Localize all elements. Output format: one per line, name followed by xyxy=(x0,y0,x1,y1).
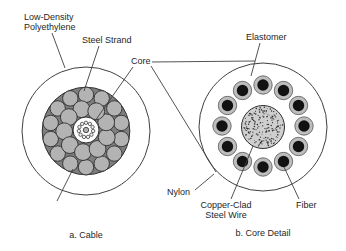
wire-dot-core xyxy=(257,161,268,172)
stipple-dot xyxy=(250,138,252,140)
stipple-dot xyxy=(274,119,275,120)
stipple-dot xyxy=(262,131,263,132)
stipple-dot xyxy=(245,121,246,122)
stipple-dot xyxy=(245,118,246,119)
stipple-dot xyxy=(273,138,274,139)
stipple-dot xyxy=(250,131,251,132)
tube-fiber-circle xyxy=(80,122,83,125)
caption-cable: a. Cable xyxy=(40,230,132,240)
stipple-dot xyxy=(243,127,244,128)
stipple-dot xyxy=(259,139,260,140)
stipple-dot xyxy=(273,130,274,131)
stipple-dot xyxy=(248,131,249,132)
stipple-dot xyxy=(274,115,275,116)
steel-strand-circle xyxy=(78,160,93,175)
steel-strand-circle xyxy=(114,115,129,130)
label-steel-strand: Steel Strand xyxy=(82,35,132,45)
stipple-dot xyxy=(277,134,279,136)
stipple-dot xyxy=(282,124,284,126)
stipple-dot xyxy=(272,118,273,119)
stipple-dot xyxy=(254,121,255,122)
stipple-dot xyxy=(271,138,272,139)
stipple-dot xyxy=(272,122,273,123)
steel-strand-circle xyxy=(75,144,92,161)
stipple-dot xyxy=(266,128,267,129)
stipple-dot xyxy=(263,113,264,114)
stipple-dot xyxy=(270,117,271,118)
stipple-dot xyxy=(250,121,251,122)
stipple-dot xyxy=(275,140,276,141)
stipple-dot xyxy=(270,108,271,109)
cable-cross-section-diagram xyxy=(0,0,346,251)
stipple-dot xyxy=(257,127,258,128)
stipple-dot xyxy=(252,134,253,135)
stipple-dot xyxy=(260,136,261,137)
stipple-dot xyxy=(264,107,265,108)
stipple-dot xyxy=(257,124,259,126)
label-low-density-line2: Polyethylene xyxy=(24,22,76,32)
stipple-dot xyxy=(272,116,273,117)
wire-dot-core xyxy=(237,85,248,96)
stipple-dot xyxy=(259,107,261,109)
stipple-dot xyxy=(271,119,272,120)
stipple-dot xyxy=(258,145,259,146)
stipple-dot xyxy=(246,128,247,129)
stipple-dot xyxy=(266,116,267,117)
tube-fiber-circle xyxy=(82,135,85,138)
stipple-dot xyxy=(247,128,248,129)
stipple-dot xyxy=(251,117,252,118)
stipple-dot xyxy=(267,137,268,138)
caption-core-detail: b. Core Detail xyxy=(213,228,313,238)
steel-strand-circle xyxy=(78,87,93,102)
stipple-dot xyxy=(256,129,257,130)
stipple-dot xyxy=(255,113,257,115)
stipple-dot xyxy=(276,129,278,131)
steel-strand-circle xyxy=(107,146,122,161)
label-low-density-line1: Low-Density xyxy=(24,12,76,22)
leader-low-density-polyethylene xyxy=(52,33,65,68)
stipple-dot xyxy=(256,108,258,110)
leader-nylon xyxy=(195,174,214,190)
stipple-dot xyxy=(256,133,257,134)
stipple-dot xyxy=(252,117,253,118)
stipple-dot xyxy=(278,131,279,132)
label-nylon: Nylon xyxy=(167,187,190,197)
stipple-dot xyxy=(277,137,278,138)
stipple-dot xyxy=(245,123,246,124)
stipple-dot xyxy=(279,127,280,128)
stipple-dot xyxy=(245,124,246,125)
stipple-dot xyxy=(248,128,249,129)
stipple-dot xyxy=(248,124,249,125)
stipple-dot xyxy=(266,110,268,112)
stipple-dot xyxy=(266,140,267,141)
stipple-dot xyxy=(259,111,261,113)
stipple-dot xyxy=(262,116,263,117)
stipple-dot xyxy=(259,144,260,145)
steel-strand-circle xyxy=(94,156,109,171)
stipple-dot xyxy=(262,141,263,142)
wire-dot-core xyxy=(222,100,233,111)
stipple-dot xyxy=(260,142,261,143)
stipple-dot xyxy=(246,124,247,125)
stipple-dot xyxy=(267,143,268,144)
stipple-dot xyxy=(276,113,277,114)
tube-fiber-circle xyxy=(86,135,89,138)
stipple-dot xyxy=(267,127,268,128)
wire-dot-core xyxy=(293,100,304,111)
wire-dot-core xyxy=(222,141,233,152)
stipple-dot xyxy=(248,139,249,140)
stipple-dot xyxy=(261,143,262,144)
stipple-dot xyxy=(277,125,278,126)
stipple-dot xyxy=(253,120,254,121)
stipple-dot xyxy=(262,110,263,111)
label-low-density-polyethylene: Low-Density Polyethylene xyxy=(24,12,76,32)
label-core: Core xyxy=(131,56,151,66)
stipple-dot xyxy=(269,139,270,140)
stipple-dot xyxy=(265,137,266,138)
stipple-dot xyxy=(248,121,250,123)
stipple-dot xyxy=(271,125,272,126)
stipple-dot xyxy=(275,128,276,129)
stipple-dot xyxy=(270,134,271,135)
stipple-dot xyxy=(254,129,255,130)
stipple-dot xyxy=(261,140,263,142)
